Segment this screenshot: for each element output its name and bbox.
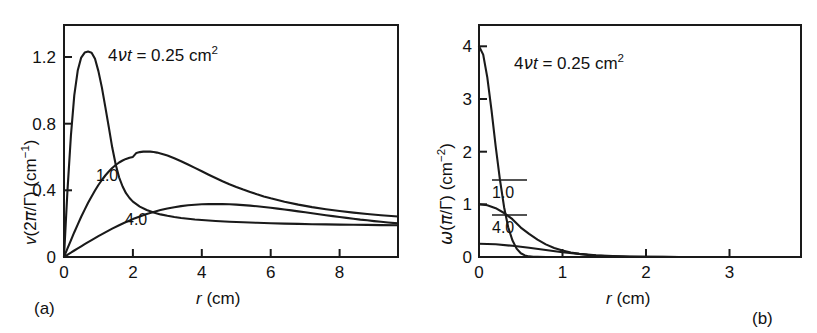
panel-a-xtick-1: 2 xyxy=(128,264,137,281)
panel-b-xlabel-unit: (cm) xyxy=(612,289,651,308)
panel-a-ylabel-tail: ) xyxy=(21,139,40,145)
panel-a-tag: (a) xyxy=(34,300,55,317)
nu-symbol: ν xyxy=(523,53,533,73)
panel-a-curve-label-1: 1.0 xyxy=(96,168,118,184)
panel-b-ytick-0: 0 xyxy=(430,249,472,266)
curve-025 xyxy=(64,52,398,257)
pi-symbol: π xyxy=(436,215,456,225)
panel-a-ytick-3: 1.2 xyxy=(12,49,56,66)
panel-b-ytick-3: 3 xyxy=(430,91,472,108)
panel-a-annot-exp: 2 xyxy=(212,44,218,56)
panel-b-curves xyxy=(479,46,801,257)
panel-a-annot-equals: = 0.25 cm xyxy=(132,46,212,65)
panel-b-xtick-0: 0 xyxy=(474,264,483,281)
panel-b-ylabel-close: ) (cm xyxy=(437,162,456,201)
nu-symbol: ν xyxy=(117,45,127,65)
panel-a-curve-label-2: 4.0 xyxy=(125,212,147,228)
panel-a-x-axis-title: r (cm) xyxy=(196,290,240,307)
omega-symbol: ω xyxy=(436,231,456,245)
panel-b-tag: (b) xyxy=(752,310,773,327)
panel-b-ylabel-slash: / xyxy=(437,210,456,215)
gamma-symbol: Γ xyxy=(21,197,40,206)
panel-a-xtick-2: 4 xyxy=(197,264,206,281)
panel-a-ylabel-slash: / xyxy=(21,206,40,211)
panel-b-y-axis-title: ω(π/Γ) (cm−2) xyxy=(438,143,455,245)
panel-a-x-ticks xyxy=(64,249,340,257)
panel-a-ylabel-open: (2 xyxy=(21,221,40,236)
panel-b-curve-label-1: 1.0 xyxy=(492,185,514,201)
panel-a: 0 0.4 0.8 1.2 0 2 4 6 8 v(2π/Γ) (cm−1) r… xyxy=(0,0,410,333)
panel-a-xlabel-unit: (cm) xyxy=(202,289,241,308)
panel-b-ylabel-exp: −2 xyxy=(435,149,447,162)
panel-a-curves xyxy=(64,52,398,257)
panel-b-x-axis-title: r (cm) xyxy=(606,290,650,307)
panel-b-ytick-4: 4 xyxy=(430,38,472,55)
panel-b-annot-exp: 2 xyxy=(618,52,624,64)
panel-b-y-ticks xyxy=(479,46,487,257)
panel-b-xtick-2: 2 xyxy=(641,264,650,281)
gamma-symbol: Γ xyxy=(437,201,456,210)
curve-10 xyxy=(479,204,801,257)
panel-b-annot-equals: = 0.25 cm xyxy=(538,54,618,73)
panel-a-xtick-0: 0 xyxy=(59,264,68,281)
panel-a-ytick-2: 0.8 xyxy=(12,115,56,132)
panel-a-ytick-0: 0 xyxy=(12,249,56,266)
curve-025 xyxy=(479,46,801,257)
panel-a-ylabel-exp: −1 xyxy=(19,145,31,158)
panel-a-y-axis-title: v(2π/Γ) (cm−1) xyxy=(22,139,39,245)
panel-b-xtick-1: 1 xyxy=(558,264,567,281)
panel-b-curve-label-2: 4.0 xyxy=(492,220,514,236)
pi-symbol: π xyxy=(20,211,40,221)
panel-a-ylabel-close: ) (cm xyxy=(21,158,40,197)
panel-a-ylabel-v: v xyxy=(21,237,40,246)
panel-b-ylabel-tail: ) xyxy=(437,143,456,149)
panel-b-xtick-3: 3 xyxy=(725,264,734,281)
figure-container: 0 0.4 0.8 1.2 0 2 4 6 8 v(2π/Γ) (cm−1) r… xyxy=(0,0,817,333)
panel-b: 0 1 2 3 4 0 1 2 3 ω(π/Γ) (cm−2) r (cm) 4… xyxy=(410,0,817,333)
panel-b-annotation: 4νt = 0.25 cm2 xyxy=(514,55,624,72)
panel-a-xtick-4: 8 xyxy=(335,264,344,281)
panel-a-annotation: 4νt = 0.25 cm2 xyxy=(108,47,218,64)
panel-b-ylabel-open: ( xyxy=(437,225,456,231)
panel-a-xtick-3: 6 xyxy=(266,264,275,281)
